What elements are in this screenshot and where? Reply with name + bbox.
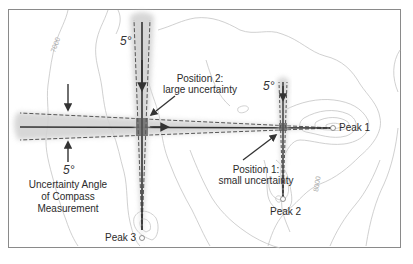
contour-label-7000: 7000 <box>49 36 61 53</box>
uncertainty-caption: Uncertainty Angle of Compass Measurement <box>22 179 114 215</box>
peak1-label: Peak 1 <box>339 122 370 133</box>
peak2-label: Peak 2 <box>270 206 301 217</box>
peak3-label: Peak 3 <box>105 232 136 243</box>
angle-label-position1: 5° <box>263 79 274 93</box>
position1-leader <box>243 135 276 160</box>
peak3-marker <box>140 236 145 241</box>
position2-leader <box>151 96 175 115</box>
angle-label-position2: 5° <box>120 34 131 48</box>
peak1-marker <box>331 126 336 131</box>
angle-label-left: 5° <box>63 163 74 177</box>
position1-label: Position 1: small uncertainty <box>211 164 301 186</box>
position2-label: Position 2: large uncertainty <box>150 73 250 95</box>
contour-label-8000: 8000 <box>312 176 322 193</box>
peak2-marker <box>281 197 286 202</box>
